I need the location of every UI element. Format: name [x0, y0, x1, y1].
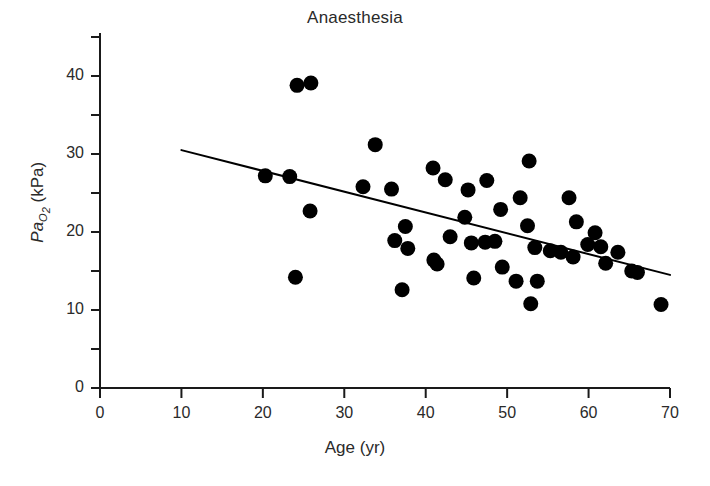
data-point — [493, 202, 508, 217]
data-point — [282, 169, 297, 184]
data-point — [384, 182, 399, 197]
data-point — [303, 203, 318, 218]
data-point — [522, 154, 537, 169]
y-tick-label: 10 — [34, 300, 84, 318]
x-tick-label: 70 — [645, 404, 695, 422]
data-point — [523, 296, 538, 311]
x-tick-label: 20 — [238, 404, 288, 422]
data-point — [495, 260, 510, 275]
data-point — [466, 271, 481, 286]
x-tick-label: 0 — [75, 404, 125, 422]
x-tick-label: 60 — [564, 404, 614, 422]
x-tick-label: 30 — [319, 404, 369, 422]
data-point — [395, 282, 410, 297]
data-point — [398, 219, 413, 234]
data-point — [368, 137, 383, 152]
data-point — [520, 218, 535, 233]
data-point — [356, 179, 371, 194]
y-tick-label: 30 — [34, 144, 84, 162]
y-tick-label: 20 — [34, 222, 84, 240]
data-point — [530, 274, 545, 289]
data-point — [610, 245, 625, 260]
data-point — [509, 274, 524, 289]
data-point — [400, 241, 415, 256]
data-point — [566, 249, 581, 264]
data-point — [598, 256, 613, 271]
data-point — [588, 225, 603, 240]
x-tick-label: 40 — [401, 404, 451, 422]
data-point — [593, 239, 608, 254]
x-tick-label: 50 — [482, 404, 532, 422]
data-point — [290, 78, 305, 93]
data-point — [438, 172, 453, 187]
x-tick-label: 10 — [156, 404, 206, 422]
data-point — [479, 173, 494, 188]
data-point — [303, 76, 318, 91]
data-point — [426, 161, 441, 176]
data-point — [487, 234, 502, 249]
data-point — [562, 190, 577, 205]
data-point — [387, 233, 402, 248]
y-tick-label: 0 — [34, 378, 84, 396]
scatter-plot-figure: Anaesthesia PaO2 (kPa) Age (yr) 01020304… — [0, 0, 710, 486]
data-point — [430, 256, 445, 271]
y-tick-label: 40 — [34, 66, 84, 84]
data-point — [457, 210, 472, 225]
data-point — [464, 235, 479, 250]
data-point — [288, 270, 303, 285]
data-point — [527, 240, 542, 255]
data-point — [630, 265, 645, 280]
data-point — [258, 168, 273, 183]
data-point — [569, 214, 584, 229]
data-point — [461, 182, 476, 197]
data-point — [443, 229, 458, 244]
data-point — [654, 297, 669, 312]
data-point — [513, 190, 528, 205]
